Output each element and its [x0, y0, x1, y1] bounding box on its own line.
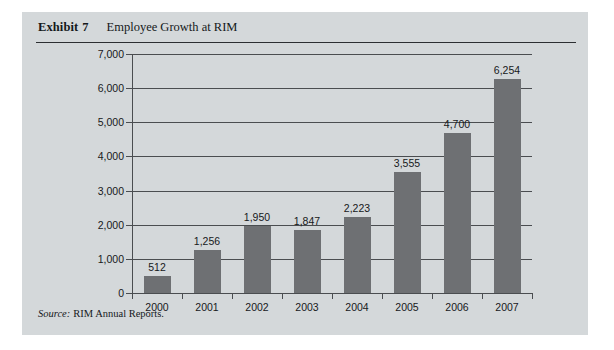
bar — [144, 276, 171, 293]
x-tick-label: 2005 — [382, 301, 432, 313]
y-tick-mark — [126, 156, 132, 157]
bar-chart: 01,0002,0003,0004,0005,0006,0007,000 200… — [22, 46, 588, 301]
x-tick-mark — [382, 294, 383, 299]
x-tick-mark — [482, 294, 483, 299]
y-axis-line — [132, 54, 133, 293]
bar — [444, 133, 471, 293]
exhibit-panel: Exhibit 7 Employee Growth at RIM 01,0002… — [22, 12, 588, 335]
y-tick-mark — [126, 88, 132, 89]
bar-value-label: 1,847 — [280, 215, 334, 227]
y-tick-label: 3,000 — [80, 185, 124, 197]
y-tick-label: 5,000 — [80, 116, 124, 128]
header-divider — [36, 42, 576, 43]
bar-value-label: 3,555 — [380, 157, 434, 169]
bar-value-label: 512 — [130, 261, 184, 273]
page-title: Employee Growth at RIM — [107, 20, 238, 35]
y-tick-mark — [126, 54, 132, 55]
source-label: Source: — [38, 308, 70, 319]
x-tick-mark — [532, 294, 533, 299]
exhibit-label: Exhibit — [38, 20, 78, 35]
x-tick-label: 2001 — [182, 301, 232, 313]
y-tick-label: 6,000 — [80, 82, 124, 94]
bar — [244, 226, 271, 293]
gridline — [132, 88, 532, 89]
y-tick-label: 0 — [80, 287, 124, 299]
bar — [194, 250, 221, 293]
bar — [494, 79, 521, 293]
bar — [394, 172, 421, 293]
bar — [294, 230, 321, 293]
bar-value-label: 2,223 — [330, 202, 384, 214]
bar-value-label: 4,700 — [430, 118, 484, 130]
x-tick-mark — [432, 294, 433, 299]
y-tick-label: 7,000 — [80, 48, 124, 60]
x-tick-mark — [232, 294, 233, 299]
bar-value-label: 1,256 — [180, 235, 234, 247]
bar-value-label: 1,950 — [230, 211, 284, 223]
y-tick-mark — [126, 122, 132, 123]
source-text: RIM Annual Reports. — [73, 308, 164, 319]
x-tick-label: 2006 — [432, 301, 482, 313]
bar-value-label: 6,254 — [480, 64, 534, 76]
x-tick-label: 2002 — [232, 301, 282, 313]
x-tick-mark — [132, 294, 133, 299]
x-tick-label: 2003 — [282, 301, 332, 313]
x-tick-label: 2004 — [332, 301, 382, 313]
y-tick-mark — [126, 225, 132, 226]
x-tick-label: 2007 — [482, 301, 532, 313]
exhibit-number: 7 — [82, 20, 88, 35]
y-tick-label: 1,000 — [80, 253, 124, 265]
x-tick-mark — [282, 294, 283, 299]
exhibit-header: Exhibit 7 Employee Growth at RIM — [22, 12, 588, 42]
y-tick-mark — [126, 191, 132, 192]
bar — [344, 217, 371, 293]
y-tick-label: 4,000 — [80, 150, 124, 162]
x-tick-mark — [182, 294, 183, 299]
gridline — [132, 54, 532, 55]
gridline — [132, 259, 532, 260]
gridline — [132, 191, 532, 192]
y-tick-label: 2,000 — [80, 219, 124, 231]
source-note: Source:RIM Annual Reports. — [38, 308, 164, 319]
gridline — [132, 156, 532, 157]
x-tick-mark — [332, 294, 333, 299]
